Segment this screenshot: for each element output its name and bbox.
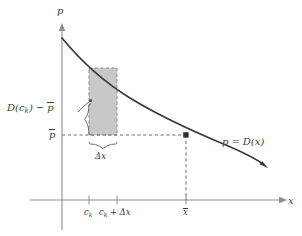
ckdx-delta: Δx <box>120 207 131 217</box>
curve-d: D <box>243 136 251 147</box>
pbar-symbol: p <box>49 130 55 140</box>
pbar-axis-label: p <box>49 130 55 140</box>
ck-k: k <box>89 211 93 218</box>
consumer-surplus-label: D(ck)−p <box>7 103 54 114</box>
delta-x-label: Δx <box>95 152 106 161</box>
curve-paren-close: ) <box>260 136 264 147</box>
demand-curve-figure: p x D(ck)−p p Δx p=D(x) ck ck+Δx x <box>0 0 302 236</box>
curve-equation-label: p=D(x) <box>222 137 264 147</box>
surplus-pbar: p <box>47 103 53 113</box>
x-axis-label: x <box>288 196 294 206</box>
surplus-d: D <box>7 102 15 113</box>
tick-label-ck-plus-dx: ck+Δx <box>99 208 131 218</box>
curve-equals: = <box>228 136 242 147</box>
ckdx-plus: + <box>107 207 119 217</box>
x-axis <box>30 197 287 204</box>
surplus-minus: − <box>33 102 47 113</box>
xbar-symbol: x <box>183 208 188 217</box>
marked-point <box>183 132 188 137</box>
horizontal-brace <box>89 142 117 148</box>
tick-label-xbar: x <box>183 208 188 217</box>
figure-canvas <box>0 0 302 236</box>
y-axis-label: p <box>57 6 63 16</box>
tick-label-ck: ck <box>84 208 92 218</box>
y-axis <box>59 23 66 230</box>
